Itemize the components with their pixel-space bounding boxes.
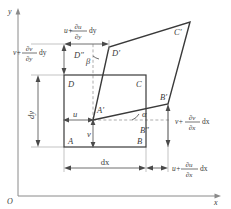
alpha-arc xyxy=(132,114,139,120)
dx-arrowhead-left xyxy=(64,166,71,171)
displacement-label-v: v xyxy=(87,129,91,139)
vertex-label-C: C xyxy=(136,79,142,89)
right-span-arrow-bottom xyxy=(166,140,171,147)
formula-trail-u-dx: dx xyxy=(200,164,208,173)
formula-u-plus-du-dy: u+ ∂u ∂y dy xyxy=(64,23,97,41)
vertex-label-D-double-prime: D″ xyxy=(73,50,84,60)
bottom-right-arrow-right xyxy=(161,166,168,171)
formula-denominator-v-dx: ∂x xyxy=(189,124,196,132)
formula-lead-u-dy: u+ xyxy=(64,26,73,35)
dy-arrowhead-bottom xyxy=(36,140,41,147)
dx-arrowhead-right xyxy=(139,166,146,171)
formula-numerator-u-dx: ∂u xyxy=(186,161,193,169)
vertex-label-B-double-prime: B″ xyxy=(140,125,149,135)
y-axis-arrowhead xyxy=(16,8,21,15)
formula-numerator-u-dy: ∂u xyxy=(75,23,82,31)
formula-denominator-u-dy: ∂y xyxy=(75,33,82,41)
formula-trail-v-dx: dx xyxy=(202,117,210,126)
formula-v-plus-dv-dx: v+ ∂v ∂x dx xyxy=(175,114,210,132)
angle-label-beta: β xyxy=(85,56,91,66)
bottom-right-span-group xyxy=(146,166,168,171)
vertex-label-B: B xyxy=(137,136,142,146)
formula-trail-u-dy: dy xyxy=(89,26,97,35)
vertex-label-B-prime: B′ xyxy=(160,92,167,102)
left-span-arrow-top xyxy=(62,44,67,51)
bottom-right-arrow-left xyxy=(146,166,153,171)
origin-label: O xyxy=(7,197,13,206)
vertex-label-A-prime: A′ xyxy=(96,105,104,115)
formula-numerator-v-dy: ∂v xyxy=(26,45,33,53)
formula-trail-v-dy: dy xyxy=(39,48,47,57)
dy-arrowhead-top xyxy=(36,75,41,82)
formula-lead-u-dx: u+ xyxy=(172,164,181,173)
left-span-dimension-group xyxy=(62,44,67,75)
formula-lead-v-dx: v+ xyxy=(175,117,183,126)
angle-label-alpha: α xyxy=(142,109,147,119)
top-span-dimension-group xyxy=(64,40,109,50)
vertex-label-D-prime: D′ xyxy=(111,48,120,58)
dimension-label-dy: dy xyxy=(26,111,36,119)
dy-dimension-group xyxy=(36,75,41,147)
beta-arc xyxy=(93,56,99,59)
vertex-label-D: D xyxy=(67,79,75,89)
y-axis-label: y xyxy=(7,7,12,16)
x-axis-label: x xyxy=(213,198,218,207)
right-span-dimension-group xyxy=(166,104,171,147)
dashed-construction-group xyxy=(93,42,170,120)
vertex-label-A: A xyxy=(67,136,74,146)
formula-denominator-u-dx: ∂x xyxy=(186,171,193,179)
displacement-label-u: u xyxy=(73,109,77,119)
axes-group xyxy=(16,8,221,198)
formula-numerator-v-dx: ∂v xyxy=(189,114,196,122)
formula-lead-v-dy: v+ xyxy=(13,48,21,57)
strain-deformation-figure: y x O A B C D A′ B′ C′ D′ xyxy=(0,0,231,209)
formula-u-plus-du-dx: u+ ∂u ∂x dx xyxy=(172,161,208,179)
vertex-label-C-prime: C′ xyxy=(174,27,182,37)
left-span-arrow-bottom xyxy=(62,68,67,75)
top-span-arrow-right xyxy=(102,42,109,47)
top-span-arrow-left xyxy=(64,42,71,47)
formula-denominator-v-dy: ∂y xyxy=(26,55,33,63)
dimension-label-dx: dx xyxy=(101,157,110,167)
